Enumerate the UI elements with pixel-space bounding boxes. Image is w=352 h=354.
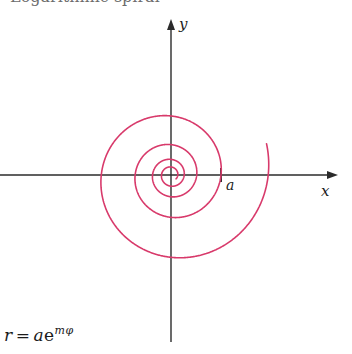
equation-equals: =	[13, 325, 34, 345]
equation-exponent: mφ	[55, 324, 74, 337]
y-axis-label: y	[179, 17, 187, 32]
x-axis-label: x	[321, 184, 329, 199]
spiral-curve-group	[101, 116, 269, 258]
spiral-plot-svg	[0, 0, 352, 354]
logarithmic-spiral-curve	[101, 116, 269, 258]
logarithmic-spiral-figure: Logarithmic spiral y x a r=aemφ	[0, 0, 352, 354]
spiral-equation: r=aemφ	[4, 325, 74, 345]
equation-e: e	[44, 325, 55, 345]
a-tick-label: a	[226, 178, 234, 192]
equation-r: r	[4, 325, 13, 345]
axes-group	[0, 29, 328, 342]
equation-a: a	[33, 325, 44, 345]
